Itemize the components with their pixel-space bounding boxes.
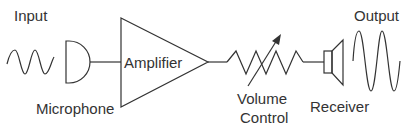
receiver-magnet-icon — [324, 51, 332, 73]
microphone-label: Microphone — [36, 100, 114, 117]
volume-label-line2: Control — [240, 109, 288, 126]
receiver-cone-icon — [332, 40, 343, 85]
volume-arrow-icon — [248, 40, 277, 86]
amplifier-label: Amplifier — [124, 54, 182, 71]
signal-chain-diagram: Input Amplifier Microphone Volume Contro… — [0, 0, 408, 134]
microphone-icon — [66, 41, 90, 83]
output-wave-icon — [353, 31, 400, 91]
volume-label-line1: Volume — [237, 90, 287, 107]
input-wave-icon — [7, 50, 54, 74]
volume-resistor-icon — [227, 51, 303, 74]
input-label: Input — [14, 7, 48, 24]
output-label: Output — [354, 7, 400, 24]
volume-arrowhead-icon — [272, 34, 281, 45]
receiver-label: Receiver — [310, 98, 369, 115]
